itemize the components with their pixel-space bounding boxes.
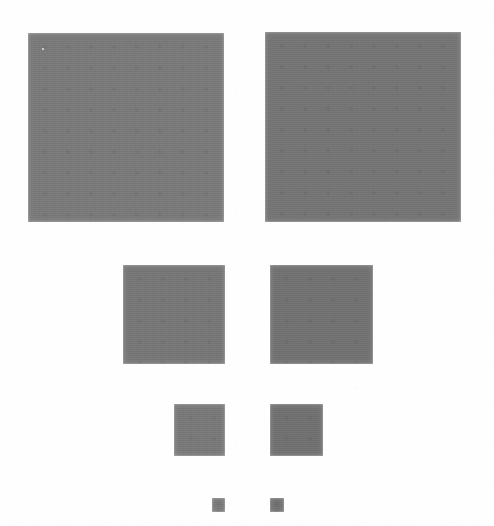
gray-square-medium-left bbox=[123, 265, 225, 364]
figure-canvas bbox=[0, 0, 494, 526]
gray-square-medium-right bbox=[270, 265, 373, 364]
gray-square-large-right bbox=[265, 32, 461, 222]
gray-square-small-left bbox=[174, 404, 225, 456]
gray-square-small-right bbox=[270, 404, 323, 456]
gray-square-large-left bbox=[28, 33, 224, 222]
gray-square-tiny-right bbox=[270, 498, 284, 512]
gray-square-tiny-left bbox=[212, 498, 225, 512]
